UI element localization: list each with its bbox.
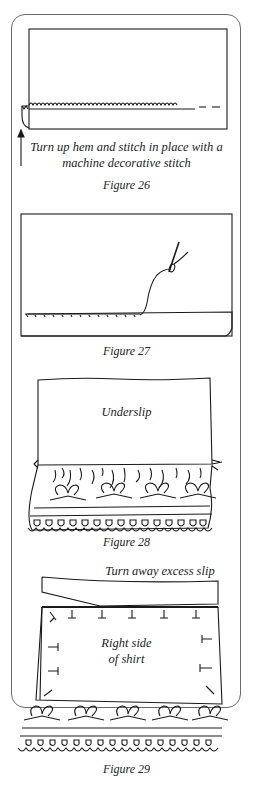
underslip-label: Underslip xyxy=(0,405,253,420)
figure-26-caption: Figure 26 xyxy=(0,178,253,193)
figure-29-annotation: Turn away excess slip xyxy=(100,564,220,579)
figure-27-drawing xyxy=(21,214,232,336)
bow-motifs xyxy=(24,706,228,720)
figure-28-caption: Figure 28 xyxy=(0,535,253,550)
figure-29-label-line2: of shirt xyxy=(0,652,253,667)
figure-26-annotation-line1: Turn up hem and stitch in place with a xyxy=(0,139,253,155)
figure-29-label-line1: Right side xyxy=(0,636,253,651)
figure-28-drawing xyxy=(28,378,222,531)
figure-29-caption: Figure 29 xyxy=(0,762,253,777)
figure-26-annotation-line2: machine decorative stitch xyxy=(0,155,253,171)
bow-motifs xyxy=(50,483,216,500)
figure-27-caption: Figure 27 xyxy=(0,344,253,359)
